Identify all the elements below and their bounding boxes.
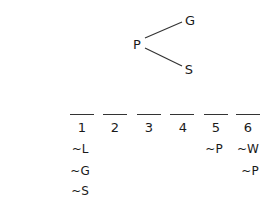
node-branch-bottom: S <box>185 63 193 76</box>
slot-number-5: 5 <box>212 120 220 135</box>
slot-line-5 <box>204 114 228 115</box>
slot-1-constraint: ~S <box>71 184 89 198</box>
tree-lines <box>0 0 270 212</box>
slot-line-6 <box>236 114 260 115</box>
slot-6-constraint: ~W <box>237 142 259 156</box>
slot-1-constraint: ~L <box>72 142 89 156</box>
slot-number-1: 1 <box>78 120 86 135</box>
slot-line-4 <box>170 114 194 115</box>
slot-1-constraint: ~G <box>70 164 89 178</box>
slot-line-1 <box>70 114 94 115</box>
edge-p-g <box>145 22 182 38</box>
slot-number-6: 6 <box>244 120 252 135</box>
slot-6-constraint: ~P <box>241 164 258 178</box>
slot-5-constraint: ~P <box>205 142 222 156</box>
slot-line-2 <box>103 114 127 115</box>
node-branch-top: G <box>185 14 195 27</box>
edge-p-s <box>145 48 182 66</box>
node-root: P <box>133 38 141 51</box>
slot-line-3 <box>137 114 161 115</box>
slot-number-4: 4 <box>179 120 187 135</box>
slot-number-3: 3 <box>145 120 153 135</box>
slot-number-2: 2 <box>111 120 119 135</box>
